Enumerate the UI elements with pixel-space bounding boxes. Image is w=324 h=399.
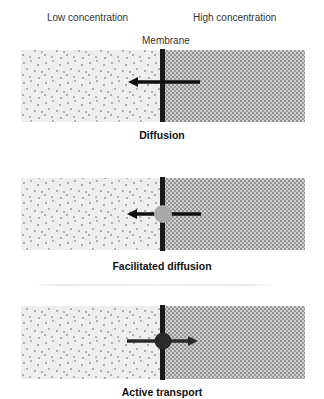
caption-diffusion: Diffusion [0, 129, 324, 141]
low-concentration-region [21, 50, 162, 122]
pump-protein-icon [155, 333, 172, 350]
carrier-protein-icon [154, 205, 172, 223]
caption-active-transport: Active transport [0, 386, 324, 398]
diagram-graphics [0, 0, 324, 399]
facilitated-diffusion-panel [21, 177, 305, 251]
scan-artifact [35, 284, 275, 286]
caption-facilitated-diffusion: Facilitated diffusion [0, 260, 324, 272]
high-concentration-region [164, 50, 305, 122]
diffusion-panel [21, 49, 305, 122]
membrane [160, 49, 165, 122]
active-transport-panel [21, 305, 305, 380]
